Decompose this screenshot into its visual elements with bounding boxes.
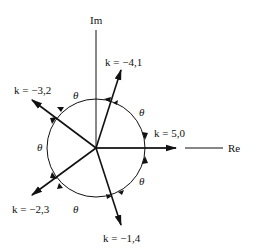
vector-label-k-minus2-3: k = −2,3 (12, 203, 50, 215)
theta-label-left: θ (37, 141, 43, 153)
vector-k-minus2-3 (32, 148, 96, 195)
vector-label-k-5-0: k = 5,0 (154, 127, 185, 139)
theta-label-top: θ (73, 89, 79, 101)
vector-k-minus1-4 (96, 148, 121, 225)
phasor-diagram: Im Re k = −4,1 k = −3,2 k = 5,0 k = −2,3… (0, 0, 253, 249)
vector-k-minus4-1 (96, 70, 121, 148)
vector-label-k-minus4-1: k = −4,1 (105, 56, 142, 68)
vector-label-k-minus1-4: k = −1,4 (103, 232, 141, 244)
vector-label-k-minus3-2: k = −3,2 (14, 84, 51, 96)
theta-label-upper-right: θ (139, 106, 145, 118)
theta-label-bottom: θ (73, 203, 79, 215)
imag-axis-label: Im (90, 14, 103, 26)
real-axis-label: Re (228, 142, 240, 154)
theta-label-lower-right: θ (139, 175, 145, 187)
